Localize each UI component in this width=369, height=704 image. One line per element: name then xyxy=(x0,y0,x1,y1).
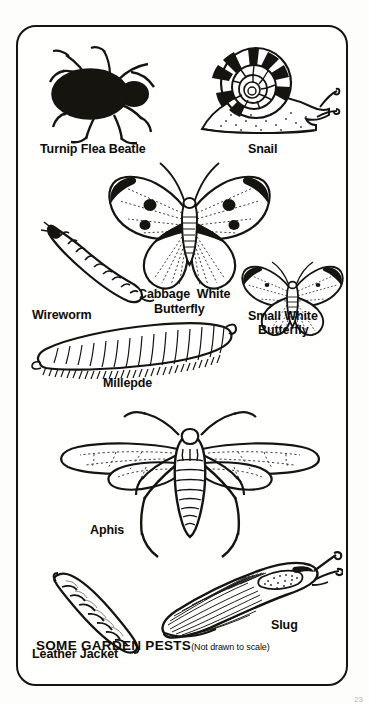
figure-wireworm xyxy=(32,209,157,314)
label-millepde: Millepde xyxy=(103,377,152,391)
illustration-plate: Turnip Flea Beatle xyxy=(16,25,348,686)
caption-note: (Not drawn to scale) xyxy=(191,642,270,652)
plate-caption: SOME GARDEN PESTS(Not drawn to scale) xyxy=(36,636,270,654)
caption-title: SOME GARDEN PESTS xyxy=(36,638,191,653)
label-aphis: Aphis xyxy=(90,524,124,538)
label-snail: Snail xyxy=(248,143,277,157)
label-small-white-butterfly-line1: Small White xyxy=(248,310,318,324)
figure-snail xyxy=(196,45,341,145)
figure-millepde xyxy=(30,315,240,385)
label-small-white-butterfly-line2: Butterfly xyxy=(258,324,309,338)
label-slug: Slug xyxy=(271,619,298,633)
figure-turnip-flea-beatle xyxy=(36,42,186,147)
label-turnip-flea-beatle: Turnip Flea Beatle xyxy=(40,143,146,157)
figure-aphis xyxy=(46,403,336,563)
page-number: 23 xyxy=(354,695,363,704)
